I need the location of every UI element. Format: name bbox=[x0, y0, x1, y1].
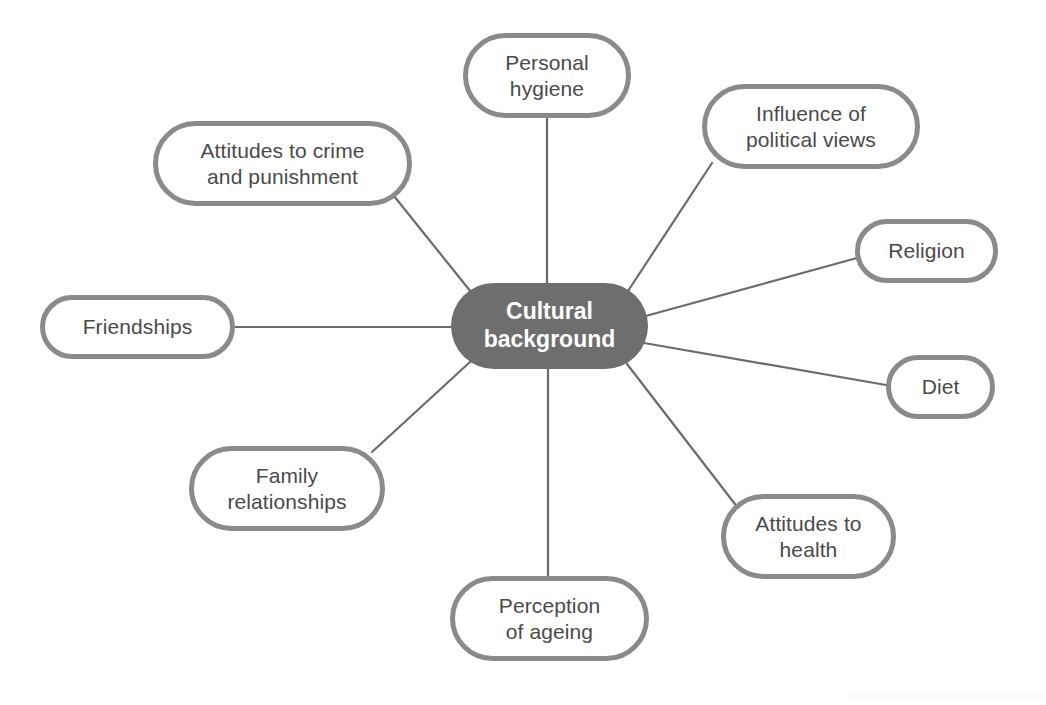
node-family-relationships[interactable]: Family relationships bbox=[189, 446, 385, 531]
node-label-diet: Diet bbox=[916, 374, 966, 400]
node-label-friendships: Friendships bbox=[77, 314, 199, 340]
node-label-perception-of-ageing: Perception of ageing bbox=[493, 593, 606, 644]
connector-line-attitudes-to-health bbox=[627, 364, 738, 508]
node-label-attitudes-to-health: Attitudes to health bbox=[749, 511, 867, 562]
node-perception-of-ageing[interactable]: Perception of ageing bbox=[450, 576, 649, 661]
node-label-attitudes-to-crime-and-punishment: Attitudes to crime and punishment bbox=[194, 138, 370, 189]
node-label-influence-political-views: Influence of political views bbox=[740, 101, 882, 152]
connector-line-religion bbox=[642, 258, 857, 317]
node-label-family-relationships: Family relationships bbox=[221, 463, 352, 514]
connector-line-family-relationships bbox=[372, 362, 470, 452]
node-religion[interactable]: Religion bbox=[855, 219, 998, 283]
node-friendships[interactable]: Friendships bbox=[40, 295, 235, 359]
bottom-right-artifact bbox=[850, 693, 1046, 701]
node-attitudes-to-health[interactable]: Attitudes to health bbox=[721, 494, 896, 579]
connector-line-attitudes-to-crime-and-punishment bbox=[394, 196, 471, 292]
node-influence-political-views[interactable]: Influence of political views bbox=[702, 84, 920, 169]
connector-line-influence-political-views bbox=[628, 163, 712, 291]
node-personal-hygiene[interactable]: Personal hygiene bbox=[463, 33, 631, 118]
node-label-religion: Religion bbox=[882, 238, 971, 264]
node-label-personal-hygiene: Personal hygiene bbox=[499, 50, 595, 101]
center-node-cultural-background[interactable]: Cultural background bbox=[451, 283, 648, 369]
mind-map-diagram: Personal hygieneInfluence of political v… bbox=[0, 0, 1046, 705]
center-node-label: Cultural background bbox=[484, 298, 616, 353]
connector-line-diet bbox=[644, 343, 886, 385]
node-attitudes-to-crime-and-punishment[interactable]: Attitudes to crime and punishment bbox=[153, 121, 412, 206]
node-diet[interactable]: Diet bbox=[886, 355, 995, 419]
